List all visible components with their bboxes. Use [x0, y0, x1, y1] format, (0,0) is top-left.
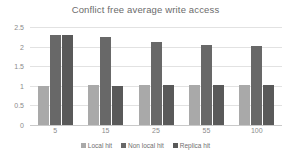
y-tick-label: 0 — [20, 122, 24, 129]
bar — [112, 86, 123, 125]
bar-group — [189, 27, 224, 125]
bar — [239, 85, 250, 125]
y-tick-label: 2.5 — [14, 24, 24, 31]
bar — [263, 85, 274, 125]
x-tick-label: 55 — [202, 127, 210, 134]
x-tick-label: 5 — [53, 127, 57, 134]
legend-item[interactable]: Replica hit — [173, 142, 210, 149]
y-tick-label: 2 — [20, 43, 24, 50]
bar — [189, 85, 200, 125]
legend-swatch-icon — [121, 143, 126, 148]
bar-group — [38, 27, 73, 125]
bar-group — [88, 27, 123, 125]
bar — [163, 85, 174, 125]
y-tick-label: 1.5 — [14, 63, 24, 70]
x-axis-labels: 5152555100 — [30, 126, 282, 139]
bar — [213, 85, 224, 125]
legend-swatch-icon — [173, 143, 178, 148]
chart-figure: Conflict free average write access 00.51… — [0, 0, 291, 161]
bar — [251, 46, 262, 125]
legend-item[interactable]: Local hit — [81, 142, 112, 149]
legend-label: Non local hit — [128, 142, 164, 149]
legend-label: Replica hit — [180, 142, 210, 149]
bar — [50, 35, 61, 125]
legend-label: Local hit — [88, 142, 112, 149]
bar — [151, 42, 162, 125]
bar-group — [139, 27, 174, 125]
x-tick-label: 15 — [102, 127, 110, 134]
chart-legend: Local hitNon local hitReplica hit — [0, 142, 291, 149]
legend-swatch-icon — [81, 143, 86, 148]
x-tick-label: 25 — [152, 127, 160, 134]
bar — [62, 35, 73, 125]
y-tick-label: 1 — [20, 82, 24, 89]
bar-group — [239, 27, 274, 125]
bar — [139, 85, 150, 125]
legend-item[interactable]: Non local hit — [121, 142, 164, 149]
x-tick-label: 100 — [251, 127, 263, 134]
bar — [38, 86, 49, 125]
bar — [201, 45, 212, 125]
plot-area — [30, 27, 282, 125]
bar — [88, 85, 99, 125]
y-tick-label: 0.5 — [14, 102, 24, 109]
y-axis-labels: 00.511.522.5 — [0, 27, 27, 125]
bar — [100, 37, 111, 125]
chart-title: Conflict free average write access — [0, 4, 291, 15]
